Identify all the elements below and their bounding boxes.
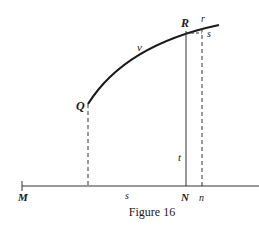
label-Q: Q (76, 99, 85, 113)
figure-16-diagram: Q R r s v t M s N n Figure 16 (0, 0, 259, 230)
label-R: R (180, 16, 189, 30)
label-M: M (17, 191, 29, 203)
label-v: v (137, 41, 142, 53)
label-s-small: s (207, 28, 211, 39)
label-N: N (180, 191, 190, 203)
label-t: t (178, 151, 182, 163)
curve-v (88, 25, 219, 104)
label-s-base: s (125, 190, 129, 201)
figure-caption: Figure 16 (129, 205, 175, 219)
label-r: r (201, 13, 205, 24)
label-n: n (199, 192, 204, 203)
